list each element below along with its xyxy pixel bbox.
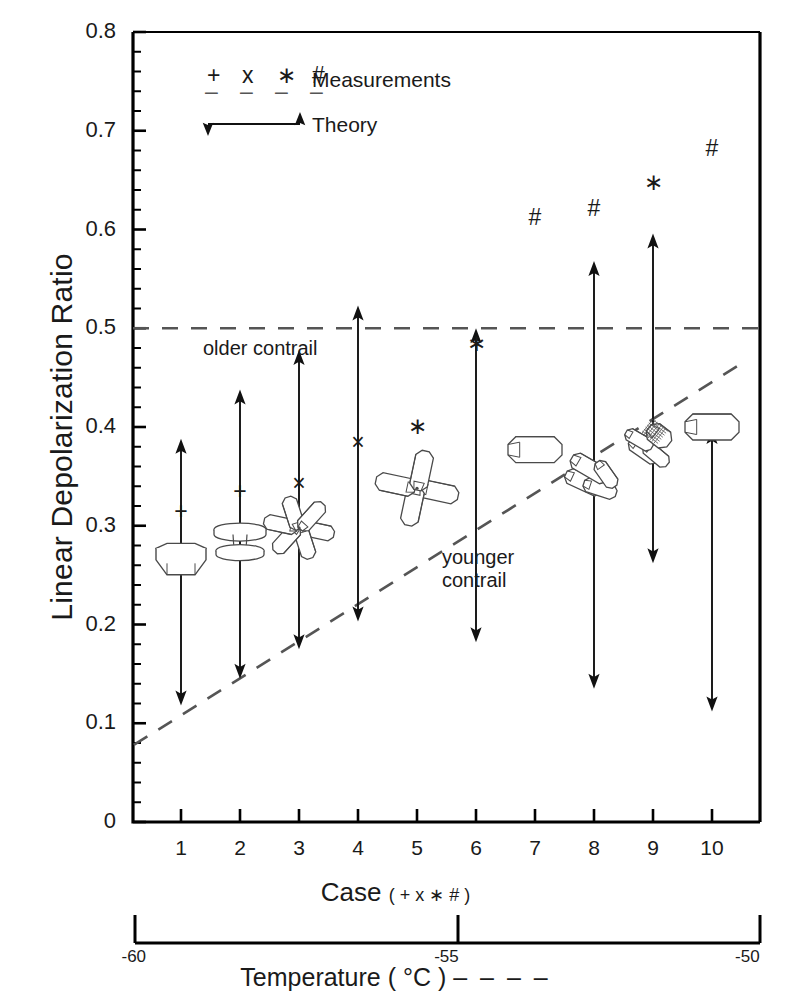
measurement-marker-case-7: # xyxy=(520,204,550,231)
x-tick-label-case-6: 6 xyxy=(456,836,496,860)
y-tick-label: 0.1 xyxy=(42,709,116,735)
x-tick-label-case-8: 8 xyxy=(574,836,614,860)
temperature-axis-title-text: Temperature ( °C ) xyxy=(240,963,446,991)
y-tick-label: 0.7 xyxy=(42,117,116,143)
crystal-solid-column-case-7 xyxy=(508,437,562,463)
measurement-marker-case-8: # xyxy=(579,195,609,222)
plot-axes xyxy=(133,32,760,822)
measurement-marker-case-3: × xyxy=(284,470,314,497)
younger-contrail-annotation-line2: contrail xyxy=(442,569,506,592)
legend-measurements-label: Measurements xyxy=(312,68,451,92)
x-axis-title-symbols: ( + x ∗ # ) xyxy=(389,885,471,905)
theory-range-arrows xyxy=(175,233,717,711)
crystal-hollow-column-aggregate-case-9 xyxy=(623,418,676,470)
older-contrail-annotation: older contrail xyxy=(203,337,318,360)
measurement-marker-case-9: ∗ xyxy=(638,169,668,196)
x-axis-title: Case ( + x ∗ # ) xyxy=(0,877,791,908)
y-tick-label: 0 xyxy=(42,808,116,834)
y-tick-label: 0.6 xyxy=(42,216,116,242)
y-tick-label: 0.5 xyxy=(42,314,116,340)
measurement-marker-case-4: × xyxy=(343,429,373,456)
y-axis-ticks xyxy=(133,32,146,822)
measurement-marker-case-2: + xyxy=(225,478,255,505)
x-axis-ticks xyxy=(181,809,712,822)
crystal-hexagonal-plate-case-1 xyxy=(156,543,206,574)
younger-contrail-annotation-line1: younger xyxy=(442,546,514,569)
theory-range-case-6 xyxy=(470,328,481,642)
x-tick-label-case-2: 2 xyxy=(220,836,260,860)
temperature-axis-title: Temperature ( °C ) – – – – xyxy=(0,963,791,992)
y-tick-label: 0.8 xyxy=(42,18,116,44)
temperature-axis xyxy=(135,915,760,943)
theory-range-case-10 xyxy=(706,429,717,711)
crystal-bullet-rosette-case-3 xyxy=(263,495,336,561)
y-tick-label: 0.3 xyxy=(42,512,116,538)
theory-range-case-9 xyxy=(647,233,658,563)
chart-figure: Linear Depolarization Ratio 0.80.70.60.5… xyxy=(0,0,791,1001)
x-tick-label-case-7: 7 xyxy=(515,836,555,860)
measurement-marker-case-5: ∗ xyxy=(402,413,432,440)
x-tick-label-case-5: 5 xyxy=(397,836,437,860)
x-tick-label-case-4: 4 xyxy=(338,836,378,860)
measurement-marker-case-6: ∗ xyxy=(461,330,491,357)
temperature-axis-dash-key: – – – – xyxy=(453,963,550,991)
legend-dash-1: – xyxy=(240,78,253,105)
legend-dash-2: – xyxy=(275,78,288,105)
crystal-bullet-rosette-4arm-case-5 xyxy=(374,449,460,527)
legend-theory-label: Theory xyxy=(312,113,377,137)
y-tick-label: 0.2 xyxy=(42,611,116,637)
x-tick-label-case-10: 10 xyxy=(692,836,732,860)
legend-dash-0: – xyxy=(205,78,218,105)
x-tick-label-case-1: 1 xyxy=(161,836,201,860)
x-axis-title-main: Case xyxy=(321,877,382,907)
measurement-marker-case-10: # xyxy=(697,135,727,162)
measurement-marker-case-1: + xyxy=(166,498,196,525)
x-tick-label-case-3: 3 xyxy=(279,836,319,860)
y-tick-label: 0.4 xyxy=(42,413,116,439)
crystal-column-aggregate-case-8 xyxy=(562,451,620,501)
x-tick-label-case-9: 9 xyxy=(633,836,673,860)
crystal-solid-column-case-10 xyxy=(685,414,739,440)
theory-range-case-4 xyxy=(352,306,363,622)
